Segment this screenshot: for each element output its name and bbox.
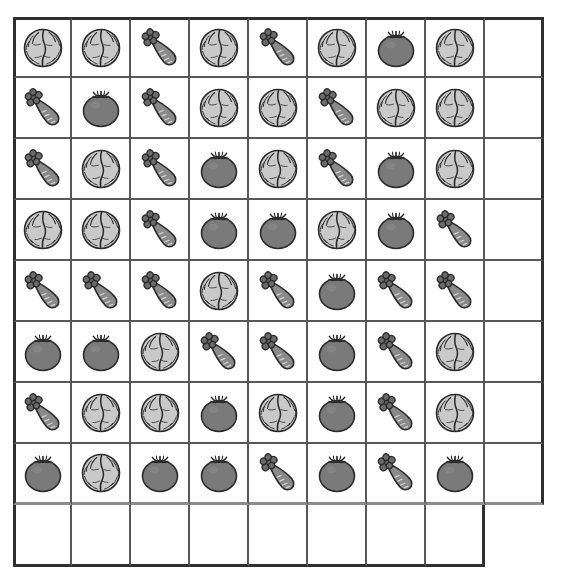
carrot-icon xyxy=(136,24,184,72)
grid-cell-carrot[interactable] xyxy=(426,200,485,261)
grid-cell-cabbage[interactable] xyxy=(13,17,72,78)
grid-cell-carrot[interactable] xyxy=(131,261,190,322)
grid-cell-tomato[interactable] xyxy=(308,444,367,505)
grid-cell-carrot[interactable] xyxy=(131,200,190,261)
cabbage-icon xyxy=(77,449,125,497)
grid-cell-empty[interactable] xyxy=(13,505,72,567)
cabbage-icon xyxy=(431,145,479,193)
grid-cell-cabbage[interactable] xyxy=(308,17,367,78)
grid-cell-carrot[interactable] xyxy=(190,322,249,383)
cabbage-icon xyxy=(254,145,302,193)
tomato-icon xyxy=(372,24,420,72)
grid-cell-empty[interactable] xyxy=(485,444,544,505)
grid-cell-carrot[interactable] xyxy=(249,322,308,383)
grid-cell-carrot[interactable] xyxy=(249,444,308,505)
carrot-icon xyxy=(431,206,479,254)
grid-cell-empty[interactable] xyxy=(485,17,544,78)
grid-cell-tomato[interactable] xyxy=(308,261,367,322)
grid-cell-cabbage[interactable] xyxy=(131,322,190,383)
grid-cell-cabbage[interactable] xyxy=(72,139,131,200)
carrot-icon xyxy=(195,328,243,376)
cabbage-icon xyxy=(19,206,67,254)
grid-cell-empty[interactable] xyxy=(426,505,485,567)
grid-cell-carrot[interactable] xyxy=(367,322,426,383)
grid-cell-empty[interactable] xyxy=(131,505,190,567)
carrot-icon xyxy=(136,84,184,132)
grid-row xyxy=(13,444,544,505)
cabbage-icon xyxy=(313,206,361,254)
tomato-icon xyxy=(77,328,125,376)
grid-cell-carrot[interactable] xyxy=(13,261,72,322)
carrot-icon xyxy=(313,84,361,132)
grid-cell-cabbage[interactable] xyxy=(72,17,131,78)
grid-cell-cabbage[interactable] xyxy=(426,78,485,139)
grid-cell-cabbage[interactable] xyxy=(72,200,131,261)
grid-cell-tomato[interactable] xyxy=(72,78,131,139)
grid-cell-empty[interactable] xyxy=(485,383,544,444)
grid-cell-carrot[interactable] xyxy=(249,17,308,78)
grid-cell-cabbage[interactable] xyxy=(190,78,249,139)
grid-cell-tomato[interactable] xyxy=(308,322,367,383)
grid-cell-tomato[interactable] xyxy=(426,444,485,505)
grid-cell-empty[interactable] xyxy=(308,505,367,567)
grid-row xyxy=(13,505,544,567)
carrot-icon xyxy=(372,267,420,315)
grid-cell-cabbage[interactable] xyxy=(367,78,426,139)
grid-cell-carrot[interactable] xyxy=(131,17,190,78)
grid-cell-carrot[interactable] xyxy=(13,139,72,200)
grid-cell-carrot[interactable] xyxy=(308,78,367,139)
carrot-icon xyxy=(19,145,67,193)
grid-cell-empty[interactable] xyxy=(485,261,544,322)
tomato-icon xyxy=(19,449,67,497)
grid-cell-tomato[interactable] xyxy=(190,139,249,200)
grid-cell-cabbage[interactable] xyxy=(426,139,485,200)
grid-cell-cabbage[interactable] xyxy=(249,78,308,139)
grid-cell-carrot[interactable] xyxy=(367,444,426,505)
grid-cell-cabbage[interactable] xyxy=(72,444,131,505)
grid-cell-tomato[interactable] xyxy=(13,444,72,505)
grid-cell-carrot[interactable] xyxy=(308,139,367,200)
grid-cell-tomato[interactable] xyxy=(308,383,367,444)
grid-row xyxy=(13,322,544,383)
grid-cell-carrot[interactable] xyxy=(249,261,308,322)
grid-cell-empty[interactable] xyxy=(367,505,426,567)
grid-cell-empty[interactable] xyxy=(485,78,544,139)
cabbage-icon xyxy=(136,328,184,376)
grid-cell-carrot[interactable] xyxy=(131,78,190,139)
grid-cell-tomato[interactable] xyxy=(190,200,249,261)
grid-cell-tomato[interactable] xyxy=(249,200,308,261)
grid-cell-tomato[interactable] xyxy=(190,444,249,505)
grid-cell-carrot[interactable] xyxy=(131,139,190,200)
grid-cell-empty[interactable] xyxy=(485,139,544,200)
grid-cell-carrot[interactable] xyxy=(426,261,485,322)
grid-cell-cabbage[interactable] xyxy=(72,383,131,444)
grid-cell-empty[interactable] xyxy=(485,322,544,383)
grid-cell-cabbage[interactable] xyxy=(426,322,485,383)
grid-cell-cabbage[interactable] xyxy=(426,17,485,78)
grid-cell-tomato[interactable] xyxy=(367,17,426,78)
grid-cell-cabbage[interactable] xyxy=(190,17,249,78)
grid-cell-carrot[interactable] xyxy=(367,383,426,444)
grid-cell-cabbage[interactable] xyxy=(131,383,190,444)
grid-cell-carrot[interactable] xyxy=(367,261,426,322)
grid-cell-carrot[interactable] xyxy=(72,261,131,322)
grid-cell-empty[interactable] xyxy=(190,505,249,567)
grid-cell-tomato[interactable] xyxy=(367,139,426,200)
grid-cell-cabbage[interactable] xyxy=(13,200,72,261)
grid-cell-cabbage[interactable] xyxy=(249,383,308,444)
grid-cell-carrot[interactable] xyxy=(13,78,72,139)
grid-cell-empty[interactable] xyxy=(485,200,544,261)
grid-cell-cabbage[interactable] xyxy=(249,139,308,200)
tomato-icon xyxy=(372,206,420,254)
grid-cell-cabbage[interactable] xyxy=(190,261,249,322)
grid-cell-empty[interactable] xyxy=(249,505,308,567)
grid-cell-carrot[interactable] xyxy=(13,383,72,444)
grid-cell-tomato[interactable] xyxy=(13,322,72,383)
grid-cell-tomato[interactable] xyxy=(72,322,131,383)
grid-cell-tomato[interactable] xyxy=(131,444,190,505)
grid-cell-empty[interactable] xyxy=(72,505,131,567)
grid-cell-tomato[interactable] xyxy=(190,383,249,444)
grid-cell-tomato[interactable] xyxy=(367,200,426,261)
grid-cell-cabbage[interactable] xyxy=(426,383,485,444)
grid-cell-cabbage[interactable] xyxy=(308,200,367,261)
